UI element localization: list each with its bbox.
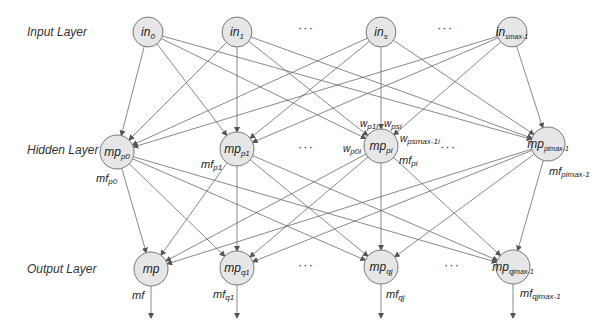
hidden-output-label-p0: mfp0 [96, 172, 117, 186]
edge-in0-mppi [161, 39, 365, 139]
edge-ins-mpp1 [250, 41, 369, 138]
output-node-mp: mp [134, 252, 168, 286]
input-ellipsis-2: ··· [437, 20, 453, 35]
neural-network-diagram: in0in1insinsmax-1mpp0mpp1mppimppimax-1mp… [0, 0, 606, 332]
weight-label-p1i: wp1i [360, 118, 378, 131]
output-label-qj: mfqj [386, 288, 404, 302]
input-layer-label: Input Layer [27, 25, 87, 39]
output-label-q1: mfq1 [213, 288, 234, 302]
output-ellipsis-1: ··· [298, 257, 314, 272]
output-node-mpqj: mpqj [364, 250, 398, 284]
weight-label-psmax-1i: wpsmax-1i [400, 133, 440, 146]
edge-mpp0-mpqj [133, 159, 366, 260]
input-node-insmax: insmax-1 [496, 17, 528, 47]
input-ellipsis-1: ··· [298, 20, 314, 35]
edge-insmax-mppimax [517, 46, 543, 128]
edge-mpp0-mp [122, 168, 147, 252]
network-edges: in0in1insinsmax-1mpp0mpp1mppimppimax-1mp… [0, 0, 606, 332]
edge-mppi-mp [166, 154, 366, 261]
output-node-mpqjmax: mpqjmax-1 [492, 250, 534, 284]
edge-mpp1-mp [161, 163, 227, 255]
output-layer-label: Output Layer [27, 262, 96, 276]
output-node-mpq1: mpq1 [220, 251, 254, 285]
output-label-mf: mf [132, 289, 144, 303]
edge-mppi-mpqjmax [394, 157, 501, 255]
edge-mpp0-mpqjmax [133, 157, 496, 263]
output-label-qjmax-1: mfqjmax-1 [520, 287, 561, 301]
hidden-node-mppi: mppi [364, 129, 398, 163]
input-node-in0: in0 [133, 17, 163, 47]
edge-mppimax-mpq1 [253, 150, 532, 261]
hidden-output-label-p1: mfp1 [201, 158, 222, 172]
hidden-node-mpp1: mpp1 [220, 132, 254, 166]
hidden-node-mpp0: mpp0 [100, 135, 134, 169]
weight-label-psi: wpsi [384, 118, 401, 131]
hidden-node-mppimax: mppimax-1 [527, 127, 569, 161]
output-ellipsis-2: ··· [444, 257, 460, 272]
hidden-layer-label: Hidden Layer [27, 143, 98, 157]
input-node-ins: ins [366, 17, 396, 47]
edge-mppimax-mpqj [395, 154, 535, 257]
weight-label-p0i: wp0i [343, 143, 361, 156]
edge-mppimax-mpqjmax [518, 160, 544, 250]
edge-in1-mpp0 [129, 43, 226, 140]
hidden-output-label-pimax-1: mfpimax-1 [549, 165, 590, 179]
edge-in0-mpp0 [121, 47, 144, 136]
hidden-ellipsis-2: ··· [440, 139, 456, 154]
hidden-ellipsis-1: ··· [298, 139, 314, 154]
output-node-label: mp [143, 262, 160, 276]
input-node-in1: in1 [222, 17, 252, 47]
hidden-output-label-pi: mfpi [399, 154, 417, 168]
edge-ins-mpp0 [132, 38, 367, 145]
